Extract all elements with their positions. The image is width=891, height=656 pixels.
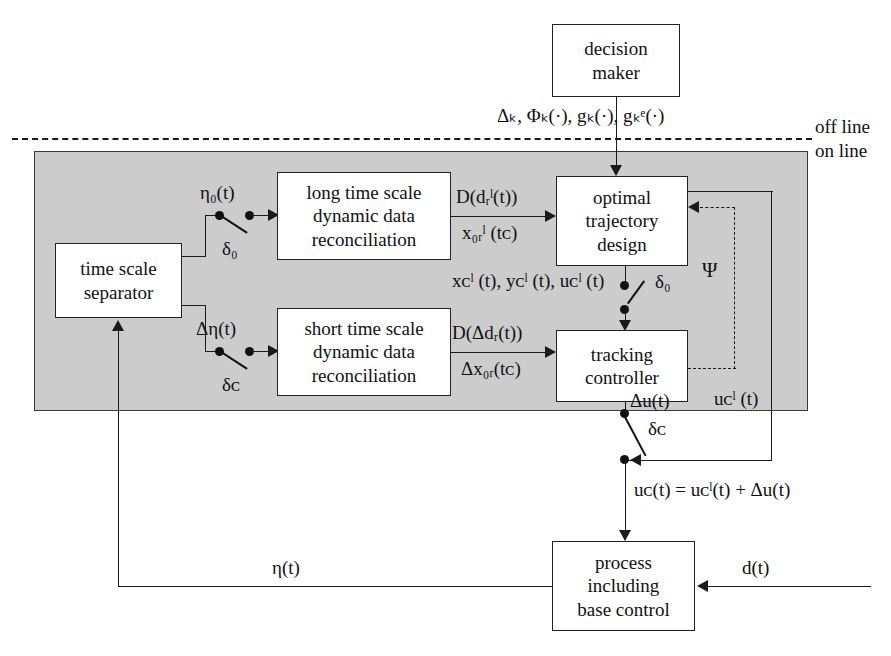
psi-label: Ψ <box>702 258 718 283</box>
psi-feedback-vertical <box>734 207 735 369</box>
short-ddr-line2: dynamic data <box>304 340 423 363</box>
block-process[interactable]: process including base control <box>552 541 695 631</box>
short-ddr-line3: reconciliation <box>304 364 423 387</box>
block-diagram-canvas: off line on line decision maker Δₖ, Φₖ(·… <box>0 0 891 656</box>
line-trajectory-right-out <box>688 191 773 192</box>
line-separator-out-upper <box>182 256 206 257</box>
switch-delta0-mid-upper-dot[interactable] <box>620 281 629 290</box>
delta-u-label: Δu(t) <box>630 390 670 412</box>
time-scale-separator-line1: time scale <box>80 257 157 280</box>
delta0-mid-label: δ₀ <box>655 271 671 293</box>
time-scale-separator-line2: separator <box>80 281 157 304</box>
trajectory-line2: trajectory <box>586 209 659 232</box>
short-ddr-output-bottom-label: Δx₀ᵣ(tᴄ) <box>461 358 521 380</box>
long-ddr-output-top-label: D(dᵣˡ(t)) <box>456 186 517 208</box>
arrowhead-long-ddr-to-trajectory <box>545 210 556 222</box>
decision-maker-line1: decision <box>584 37 647 60</box>
long-ddr-line3: reconciliation <box>306 228 421 251</box>
line-ucl-down <box>771 191 772 460</box>
tracking-line1: tracking <box>585 343 659 366</box>
process-line1: process <box>577 551 669 574</box>
switch-deltac-right-lever[interactable] <box>622 413 646 456</box>
eta0-label: η₀(t) <box>200 182 235 204</box>
line-eta-feedback-vertical <box>118 330 119 587</box>
long-ddr-line1: long time scale <box>306 181 421 204</box>
block-optimal-trajectory-design[interactable]: optimal trajectory design <box>556 176 688 266</box>
line-separator-out-lower <box>182 305 206 306</box>
disturbance-label: d(t) <box>742 557 769 579</box>
trajectory-line1: optimal <box>586 186 659 209</box>
long-ddr-output-bottom-label: x₀ᵣˡ (tᴄ) <box>462 222 517 244</box>
short-ddr-line1: short time scale <box>304 317 423 340</box>
decision-maker-line2: maker <box>584 61 647 84</box>
block-short-time-scale-ddr[interactable]: short time scale dynamic data reconcilia… <box>277 308 451 396</box>
trajectory-line3: design <box>586 233 659 256</box>
short-ddr-output-top-label: D(Δdᵣ(t)) <box>452 322 522 344</box>
sum-equation-label: uᴄ(t) = uᴄˡ(t) + Δu(t) <box>634 479 790 501</box>
line-sum-to-process <box>625 460 626 540</box>
tracking-line2: controller <box>585 366 659 389</box>
trajectory-state-outputs-label: xᴄˡ (t), yᴄˡ (t), uᴄˡ (t) <box>452 270 604 292</box>
arrowhead-eta-to-separator <box>112 320 124 331</box>
offline-online-separator <box>12 138 812 140</box>
off-line-label: off line <box>815 116 870 138</box>
long-ddr-line2: dynamic data <box>306 204 421 227</box>
line-short-ddr-to-tracking <box>451 352 551 353</box>
arrowhead-ucl-to-sum <box>630 454 641 466</box>
line-long-ddr-to-trajectory <box>451 216 551 217</box>
process-line2: including <box>577 574 669 597</box>
deltac-right-label: δᴄ <box>648 418 666 440</box>
on-line-label: on line <box>815 140 867 162</box>
arrowhead-disturbance-in <box>697 580 708 592</box>
arrowhead-psi-to-trajectory <box>688 201 699 213</box>
psi-feedback-top <box>700 207 735 208</box>
delta0-left-label: δ₀ <box>222 238 238 260</box>
psi-feedback-bottom <box>688 368 736 369</box>
eta-feedback-label: η(t) <box>272 557 300 579</box>
line-ucl-to-sum <box>624 460 772 461</box>
ucl-label: uᴄˡ (t) <box>714 388 758 410</box>
delta-eta-label: Δη(t) <box>196 318 236 340</box>
line-decision-to-trajectory <box>616 97 617 175</box>
process-line3: base control <box>577 598 669 621</box>
block-time-scale-separator[interactable]: time scale separator <box>55 243 182 318</box>
arrowhead-decision-to-trajectory <box>610 165 622 176</box>
deltac-left-label: δᴄ <box>222 374 240 396</box>
block-long-time-scale-ddr[interactable]: long time scale dynamic data reconciliat… <box>277 172 451 260</box>
decision-outputs-label: Δₖ, Φₖ(·), gₖ(·), gₖᵉ(·) <box>497 104 664 127</box>
line-separator-up-upper <box>205 215 206 257</box>
arrowhead-short-ddr-to-tracking <box>545 346 556 358</box>
block-decision-maker[interactable]: decision maker <box>552 24 680 97</box>
arrowhead-sum-to-process <box>619 530 631 541</box>
line-eta-feedback-horizontal <box>118 586 553 587</box>
line-disturbance-in <box>706 586 871 587</box>
